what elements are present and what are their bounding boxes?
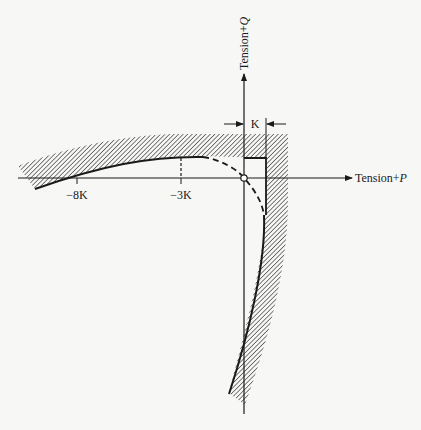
interaction-diagram: −8K −3K K Tension+P Tension+Q [0,0,421,430]
minus-8k-label: −8K [66,188,88,202]
q-axis-label: Tension+Q [237,16,251,70]
k-dimension-label: K [251,117,260,131]
p-axis-label-word: Tension [355,171,393,185]
dashed-interaction-curve [203,157,264,215]
p-axis-label: Tension+P [355,171,408,185]
q-axis-label-word: Tension [237,32,251,70]
minus-3k-label: −3K [170,188,192,202]
origin-point-marker [241,175,247,181]
p-axis-label-var: P [399,171,408,185]
q-axis-label-var: Q [237,16,251,25]
